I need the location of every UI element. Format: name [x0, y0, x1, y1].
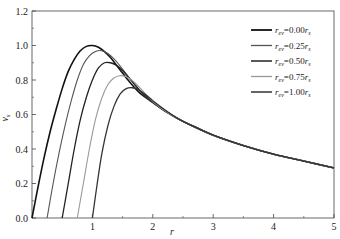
series-line-4: [92, 88, 334, 218]
y-tick-label: 0.8: [16, 75, 29, 86]
x-tick-label: 1: [90, 221, 95, 232]
x-tick-label: 4: [271, 221, 276, 232]
y-tick-label: 0.0: [16, 213, 29, 224]
x-axis-ticks: 12345: [62, 214, 336, 232]
legend: rev=0.00rsrev=0.25rsrev=0.50rsrev=0.75rs…: [251, 25, 311, 98]
legend-label: rev=1.00rs: [275, 87, 311, 98]
y-tick-label: 0.2: [16, 178, 29, 189]
x-tick-label: 2: [150, 221, 155, 232]
y-axis-ticks: 0.00.20.40.60.81.01.2: [16, 6, 37, 224]
y-tick-label: 1.2: [16, 6, 29, 17]
legend-label: rev=0.00rs: [275, 25, 311, 36]
legend-label: rev=0.25rs: [275, 41, 311, 52]
x-tick-label: 5: [332, 221, 337, 232]
series-line-2: [62, 62, 334, 218]
legend-label: rev=0.75rs: [275, 72, 311, 83]
x-axis-label: r: [170, 226, 174, 237]
legend-label: rev=0.50rs: [275, 56, 311, 67]
y-tick-label: 0.6: [16, 109, 29, 120]
y-axis-label: vs: [0, 114, 12, 121]
y-tick-label: 1.0: [16, 40, 29, 51]
x-tick-label: 3: [211, 221, 216, 232]
y-tick-label: 0.4: [16, 144, 29, 155]
line-chart: 0.00.20.40.60.81.01.2 12345 r vs rev=0.0…: [0, 0, 340, 239]
